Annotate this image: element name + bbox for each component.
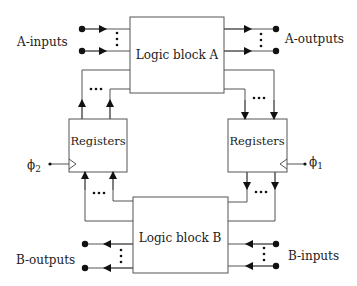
b-output-terminal-1 (82, 241, 88, 247)
a-input-terminal-1 (79, 26, 85, 32)
a-input-terminal-2 (79, 48, 85, 54)
reg-right-top-hdots-icon (253, 97, 266, 100)
b-outputs-vdots-icon (120, 249, 123, 264)
b-to-reg-left-inner (113, 172, 133, 201)
a-output-terminal-1 (273, 26, 279, 32)
clock-triangle-left-icon (69, 159, 76, 169)
logic-block-a-label: Logic block A (136, 48, 219, 62)
phi2-label: ϕ2 (27, 158, 41, 174)
b-inputs-label: B-inputs (288, 249, 339, 263)
a-outputs-vdots-icon (260, 33, 263, 48)
b-output-terminal-2 (82, 265, 88, 271)
reg-left-to-a-outer (82, 70, 130, 119)
a-inputs-vdots-icon (116, 32, 119, 47)
a-output-terminal-2 (273, 48, 279, 54)
registers-left-label: Registers (70, 134, 125, 148)
a-outputs-label: A-outputs (284, 32, 344, 46)
clock-triangle-right-icon (280, 159, 287, 169)
phi2-terminal (48, 162, 51, 165)
reg-left-to-a-inner (110, 89, 130, 119)
reg-right-to-b-outer (228, 172, 275, 221)
a-to-reg-right-outer (224, 70, 274, 119)
b-input-terminal-2 (273, 263, 279, 269)
b-outputs-label: B-outputs (16, 253, 75, 267)
reg-left-bottom-hdots-icon (93, 192, 106, 195)
reg-right-bottom-hdots-icon (255, 191, 268, 194)
phi1-terminal (303, 162, 306, 165)
two-phase-logic-diagram: Logic block A Logic block B Registers Re… (0, 0, 357, 286)
phi1-label: ϕ1 (309, 155, 323, 171)
a-to-reg-right-inner (224, 89, 245, 119)
reg-left-top-hdots-icon (90, 88, 103, 91)
reg-right-to-b-inner (228, 172, 247, 202)
b-input-terminal-1 (273, 241, 279, 247)
b-to-reg-left-outer (85, 172, 133, 221)
a-inputs-label: A-inputs (16, 35, 68, 49)
logic-block-b-label: Logic block B (139, 231, 222, 245)
registers-right-label: Registers (229, 134, 284, 148)
b-inputs-vdots-icon (263, 247, 266, 262)
